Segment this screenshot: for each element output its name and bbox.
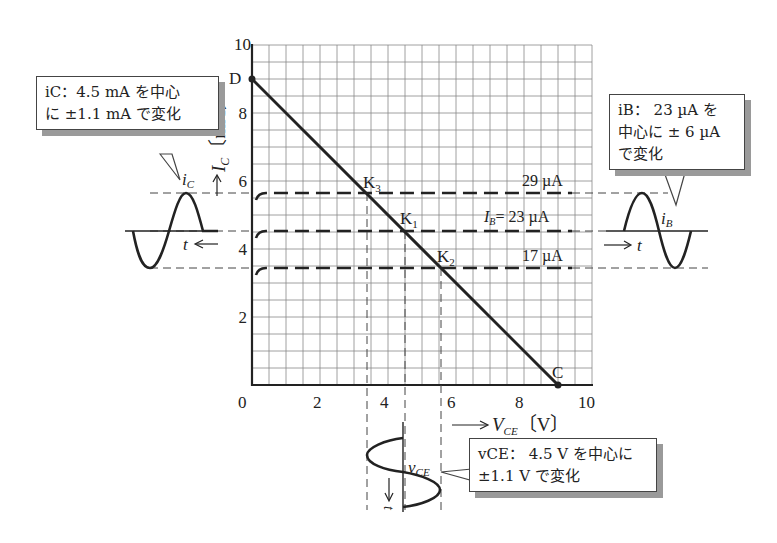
- svg-text:4: 4: [380, 393, 389, 412]
- time-arrow-right-icon: [604, 241, 631, 249]
- point-d-label: D: [229, 69, 241, 88]
- vce-callout: vCE： 4.5 V を中心に ±1.1 V で変化: [469, 438, 657, 492]
- svg-text:8: 8: [515, 393, 524, 412]
- ib-callout: iB： 23 µA を 中心に ± 6 µA で変化: [609, 94, 745, 170]
- x-tick-labels: 0 2 4 6 8 10: [238, 393, 595, 412]
- time-arrow-left-icon: [195, 240, 218, 248]
- ib-callout-line1: iB： 23 µA を: [618, 99, 736, 121]
- t-label-left: t: [183, 235, 189, 254]
- svg-text:2: 2: [239, 308, 248, 327]
- svg-text:0: 0: [238, 393, 247, 412]
- x-axis-label: VCE〔V〕: [492, 414, 569, 437]
- x-axis-arrow-icon: [452, 421, 488, 429]
- point-c-marker: [555, 382, 562, 389]
- ib-labels: 29 µA IB= 23 µA 17 µA: [483, 172, 563, 265]
- svg-text:10: 10: [578, 393, 595, 412]
- svg-text:10: 10: [234, 35, 251, 54]
- ic-waveform: [125, 193, 218, 268]
- point-k2-label: K2: [437, 247, 455, 268]
- svg-text:2: 2: [313, 393, 322, 412]
- ib-23-label: IB= 23 µA: [483, 208, 550, 227]
- ib-17-label: 17 µA: [522, 247, 563, 265]
- ic-callout-line2: に ±1.1 mA で変化: [45, 103, 210, 125]
- ib-callout-line3: で変化: [618, 143, 736, 165]
- point-k1-label: K1: [400, 209, 418, 230]
- vce-callout-line2: ±1.1 V で変化: [478, 465, 648, 487]
- svg-text:6: 6: [239, 172, 248, 191]
- ic-callout-line1: iC：4.5 mA を中心: [45, 81, 210, 103]
- point-c-label: C: [552, 363, 563, 382]
- point-labels: D C K3 K1 K2: [229, 69, 563, 382]
- ic-callout: iC：4.5 mA を中心 に ±1.1 mA で変化: [36, 76, 219, 130]
- svg-text:6: 6: [447, 393, 456, 412]
- ib-callout-line2: 中心に ± 6 µA: [618, 121, 736, 143]
- t-label-right: t: [637, 236, 643, 255]
- time-arrow-down-icon: [385, 478, 393, 501]
- ic-wave-label: iC: [182, 170, 195, 190]
- point-d-marker: [249, 76, 256, 83]
- point-k3-label: K3: [363, 173, 381, 194]
- ib-wave-label: iB: [661, 209, 673, 229]
- svg-text:8: 8: [239, 104, 248, 123]
- ib-waveform: [606, 193, 708, 268]
- vce-wave-label: vCE: [408, 458, 430, 478]
- ib-29-label: 29 µA: [522, 172, 563, 190]
- t-label-bottom: t: [381, 506, 396, 511]
- svg-text:4: 4: [239, 240, 248, 259]
- vce-callout-line1: vCE： 4.5 V を中心に: [478, 443, 648, 465]
